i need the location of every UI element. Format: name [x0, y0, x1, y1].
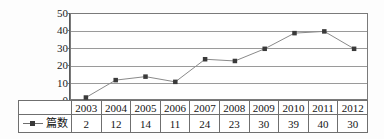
table-values-row: 篇数 2 12 14 11 24 23 30 39 40 30	[19, 115, 368, 133]
legend-square-marker-icon	[30, 121, 35, 126]
series-plot	[71, 14, 369, 101]
table-header-2008: 2008	[219, 101, 249, 115]
table-value-2006: 11	[160, 115, 190, 133]
table-header-2011: 2011	[308, 101, 338, 115]
y-tick-label-40: 40	[44, 25, 68, 36]
table-value-2004: 12	[101, 115, 131, 133]
table-corner-cell	[19, 101, 72, 115]
data-point-2012	[352, 47, 357, 52]
table-value-2010: 39	[279, 115, 309, 133]
table-value-2012: 30	[338, 115, 368, 133]
table-header-2010: 2010	[279, 101, 309, 115]
plot-area	[70, 13, 368, 100]
y-tick-label-10: 10	[44, 78, 68, 89]
data-point-2008	[233, 59, 238, 64]
table-header-2004: 2004	[101, 101, 131, 115]
y-tick-label-50: 50	[44, 8, 68, 19]
legend-series-label: 篇数	[46, 118, 68, 130]
table-value-2007: 24	[190, 115, 220, 133]
data-point-2011	[322, 29, 327, 34]
data-point-2007	[203, 57, 208, 62]
legend-line-icon	[23, 120, 43, 127]
y-tick-label-30: 30	[44, 43, 68, 54]
table-header-2006: 2006	[160, 101, 190, 115]
data-point-2004	[113, 78, 118, 83]
chart-screenshot: 50 40 30 20 10 0 2003 2004 2005 2006 200…	[0, 0, 384, 139]
table-value-2011: 40	[308, 115, 338, 133]
table-value-2009: 30	[249, 115, 279, 133]
series-markers	[84, 29, 357, 100]
data-point-2005	[143, 74, 148, 79]
table-header-2003: 2003	[72, 101, 102, 115]
data-point-2006	[173, 80, 178, 85]
table-value-2005: 14	[131, 115, 161, 133]
data-table: 2003 2004 2005 2006 2007 2008 2009 2010 …	[18, 100, 368, 133]
legend-cell: 篇数	[19, 115, 72, 133]
y-axis: 50 40 30 20 10 0	[44, 0, 68, 110]
table-header-2007: 2007	[190, 101, 220, 115]
table-header-2012: 2012	[338, 101, 368, 115]
table-value-2008: 23	[219, 115, 249, 133]
y-tick-label-20: 20	[44, 60, 68, 71]
table-value-2003: 2	[72, 115, 102, 133]
data-point-2010	[292, 31, 297, 36]
table-header-2005: 2005	[131, 101, 161, 115]
table-header-row: 2003 2004 2005 2006 2007 2008 2009 2010 …	[19, 101, 368, 115]
data-point-2009	[262, 47, 267, 52]
table-header-2009: 2009	[249, 101, 279, 115]
series-line-篇数	[86, 31, 354, 97]
